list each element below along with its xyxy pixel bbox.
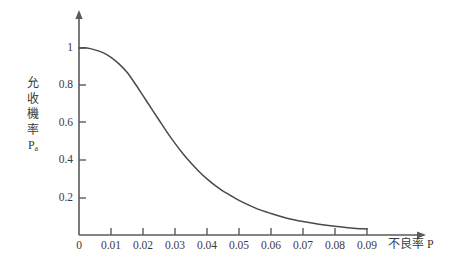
y-axis-title-char-3: 機 bbox=[22, 107, 44, 123]
y-axis-symbol-base: P bbox=[28, 138, 35, 152]
x-tick-label: 0.01 bbox=[101, 240, 121, 252]
y-tick-label: 0.2 bbox=[46, 192, 73, 204]
y-axis-title-char-1: 允 bbox=[22, 76, 44, 92]
x-tick-label: 0.08 bbox=[325, 240, 345, 252]
x-tick-label: 0.07 bbox=[293, 240, 313, 252]
x-tick-label: 0.06 bbox=[261, 240, 281, 252]
x-tick-marks bbox=[111, 228, 367, 235]
x-tick-label: 0.05 bbox=[229, 240, 249, 252]
x-tick-label: 0.03 bbox=[165, 240, 185, 252]
y-axis-title-char-2: 收 bbox=[22, 92, 44, 108]
y-axis-symbol-subscript: a bbox=[35, 144, 39, 153]
x-tick-label: 0.02 bbox=[133, 240, 153, 252]
x-tick-label: 0.04 bbox=[197, 240, 217, 252]
y-axis-title: 允 收 機 率 Pa bbox=[22, 76, 44, 155]
y-tick-label: 0.8 bbox=[46, 80, 73, 92]
x-axis-title: 不良率 P bbox=[388, 238, 434, 250]
y-tick-label: 0.4 bbox=[46, 154, 73, 166]
y-axis-title-char-4: 率 bbox=[22, 123, 44, 139]
y-tick-label: 0.6 bbox=[46, 117, 73, 129]
oc-curve-line bbox=[79, 48, 367, 229]
y-tick-marks bbox=[79, 48, 86, 198]
oc-curve-figure: 允 收 機 率 Pa 不良率 P 00.010.020.030.040.050.… bbox=[0, 0, 460, 267]
x-tick-label: 0.09 bbox=[357, 240, 377, 252]
y-axis-arrow-icon bbox=[75, 10, 82, 19]
chart-canvas bbox=[0, 0, 460, 267]
y-tick-label: 1 bbox=[46, 42, 73, 54]
y-axis-title-symbol: Pa bbox=[22, 138, 44, 155]
x-tick-label: 0 bbox=[76, 240, 82, 252]
